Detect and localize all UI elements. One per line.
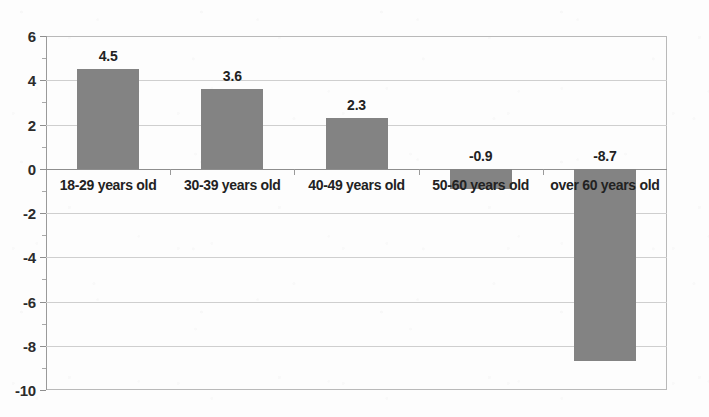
y-axis-tick-label: -10 xyxy=(15,382,36,399)
x-axis-tick xyxy=(419,169,420,175)
x-axis-tick xyxy=(294,169,295,175)
category-label: 40-49 years old xyxy=(308,177,405,193)
y-axis-tick-label: 2 xyxy=(28,116,36,133)
bar-value-label: 3.6 xyxy=(223,68,242,84)
gridline xyxy=(46,80,667,81)
y-axis-minor-tick xyxy=(42,147,46,148)
y-axis-minor-tick xyxy=(42,102,46,103)
y-axis-tick xyxy=(40,257,46,258)
y-axis-minor-tick xyxy=(42,235,46,236)
bar[interactable] xyxy=(574,169,636,361)
y-axis-tick xyxy=(40,169,46,170)
x-axis-tick xyxy=(170,169,171,175)
y-axis-tick-label: -2 xyxy=(23,205,36,222)
y-axis-tick xyxy=(40,80,46,81)
y-axis-tick xyxy=(40,346,46,347)
y-axis-minor-tick xyxy=(42,58,46,59)
bar-value-label: 4.5 xyxy=(99,48,118,64)
bar-value-label: -0.9 xyxy=(469,148,492,164)
bar-value-label: 2.3 xyxy=(347,97,366,113)
y-axis-tick xyxy=(40,125,46,126)
category-label: 30-39 years old xyxy=(184,177,281,193)
bar-value-label: -8.7 xyxy=(593,148,616,164)
plot-area: 6420-2-4-6-8-10 4.53.62.3-0.9-8.7 18-29 … xyxy=(46,36,667,390)
y-axis-minor-tick xyxy=(42,324,46,325)
plot-frame-bottom xyxy=(46,389,667,390)
y-axis-minor-tick xyxy=(42,368,46,369)
bar[interactable] xyxy=(326,118,388,169)
y-axis-tick xyxy=(40,36,46,37)
y-axis-tick xyxy=(40,213,46,214)
category-label: 18-29 years old xyxy=(60,177,157,193)
plot-frame-top xyxy=(46,36,667,37)
y-axis-tick xyxy=(40,302,46,303)
bar[interactable] xyxy=(77,69,139,169)
bar-chart: 6420-2-4-6-8-10 4.53.62.3-0.9-8.7 18-29 … xyxy=(0,0,709,417)
y-axis-tick-label: 6 xyxy=(28,28,36,45)
y-axis-minor-tick xyxy=(42,191,46,192)
y-axis-tick-label: 4 xyxy=(28,72,36,89)
y-axis-tick-label: -6 xyxy=(23,293,36,310)
x-axis-tick xyxy=(543,169,544,175)
y-axis-minor-tick xyxy=(42,279,46,280)
category-label: 50-60 years old xyxy=(432,177,529,193)
y-axis-tick xyxy=(40,390,46,391)
y-axis-tick-label: 0 xyxy=(28,160,36,177)
y-axis-tick-label: -8 xyxy=(23,337,36,354)
category-label: over 60 years old xyxy=(550,177,659,193)
bar[interactable] xyxy=(201,89,263,169)
y-axis-tick-label: -4 xyxy=(23,249,36,266)
